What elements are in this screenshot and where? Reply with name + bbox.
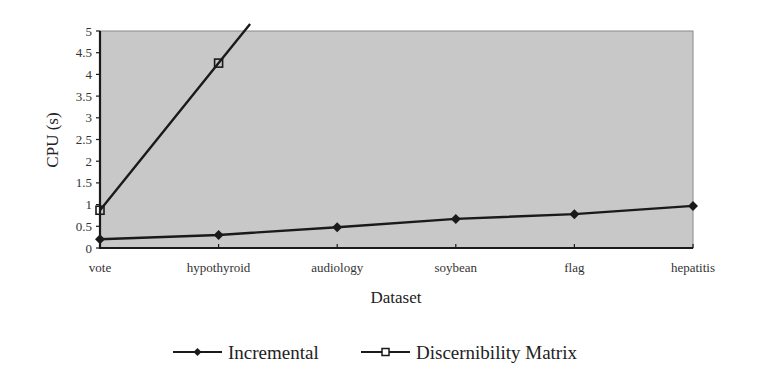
y-axis-ticks: 00.511.522.533.544.55: [76, 24, 100, 256]
x-tick-label: hepatitis: [671, 260, 715, 275]
legend-label-discernibility-matrix: Discernibility Matrix: [416, 342, 577, 363]
square-marker-icon: [382, 349, 389, 356]
y-axis-title: CPU (s): [43, 112, 62, 167]
y-tick-label: 3: [86, 110, 93, 125]
x-tick-label: hypothyroid: [187, 260, 251, 275]
y-tick-label: 0.5: [76, 219, 92, 234]
legend-item-incremental: Incremental: [173, 342, 319, 363]
x-tick-label: vote: [89, 260, 112, 275]
x-tick-label: flag: [564, 260, 585, 275]
x-tick-label: soybean: [434, 260, 477, 275]
legend-item-discernibility-matrix: Discernibility Matrix: [361, 342, 577, 363]
y-tick-label: 4.5: [76, 45, 92, 60]
y-tick-label: 2.5: [76, 132, 92, 147]
plot-area: [99, 31, 693, 249]
y-tick-label: 3.5: [76, 89, 92, 104]
y-tick-label: 0: [86, 241, 93, 256]
plot-background: [100, 31, 693, 248]
y-tick-label: 4: [86, 67, 93, 82]
legend-label-incremental: Incremental: [228, 342, 319, 363]
diamond-marker-icon: [194, 348, 202, 356]
y-tick-label: 5: [86, 24, 93, 39]
y-tick-label: 2: [86, 154, 93, 169]
y-tick-label: 1.5: [76, 175, 92, 190]
chart: 00.511.522.533.544.55 votehypothyroidaud…: [0, 0, 758, 387]
x-axis-title: Dataset: [371, 288, 422, 307]
legend: Incremental Discernibility Matrix: [173, 342, 577, 363]
x-tick-label: audiology: [311, 260, 363, 275]
y-tick-label: 1: [86, 197, 93, 212]
